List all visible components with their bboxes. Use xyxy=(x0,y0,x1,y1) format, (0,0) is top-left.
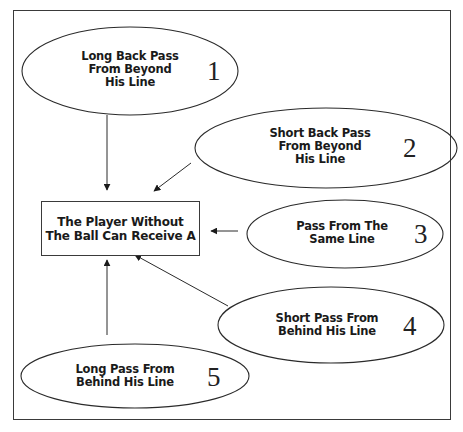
node-4-label: Short Pass From Behind His Line xyxy=(262,312,392,338)
node-5-number: 5 xyxy=(207,364,221,391)
node-2-number: 2 xyxy=(403,135,417,162)
arrow-2-to-center xyxy=(154,163,191,191)
node-3-label: Pass From The Same Line xyxy=(282,220,402,246)
node-1-number: 1 xyxy=(207,58,221,85)
arrow-4-to-center xyxy=(135,255,228,306)
node-4-number: 4 xyxy=(403,313,417,340)
node-5-label: Long Pass From Behind His Line xyxy=(60,363,190,389)
node-2-label: Short Back Pass From Beyond His Line xyxy=(250,127,390,166)
center-box-label: The Player Without The Ball Can Receive … xyxy=(45,215,195,243)
node-1-label: Long Back Pass From Beyond His Line xyxy=(60,50,200,89)
node-3-number: 3 xyxy=(414,221,428,248)
center-box: The Player Without The Ball Can Receive … xyxy=(41,201,200,256)
